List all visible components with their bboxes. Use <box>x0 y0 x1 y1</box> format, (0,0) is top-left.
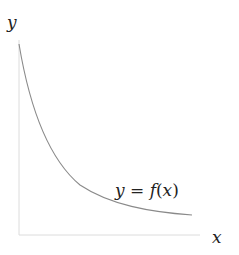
curve-label: y = f(x) <box>114 180 179 200</box>
graph-canvas: y x y = f(x) <box>0 0 239 255</box>
curve-label-equals: = <box>125 180 150 200</box>
y-axis-label: y <box>6 12 17 32</box>
x-axis-label: x <box>212 227 222 247</box>
curve-label-y: y <box>114 180 125 200</box>
